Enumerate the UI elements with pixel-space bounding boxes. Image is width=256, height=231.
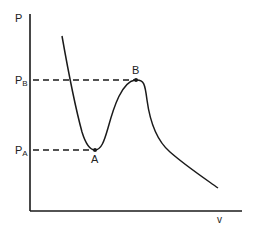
y-axis-label: P — [15, 12, 22, 24]
x-axis-label: v — [217, 214, 222, 225]
point-a-marker — [93, 148, 97, 152]
pb-label: PB — [15, 74, 28, 88]
isotherm-curve — [62, 36, 218, 188]
point-b-marker — [134, 78, 138, 82]
pv-diagram: P v PB PA A B — [0, 0, 256, 231]
pa-label: PA — [15, 144, 28, 158]
point-b-label: B — [132, 64, 139, 76]
point-a-label: A — [91, 153, 99, 165]
